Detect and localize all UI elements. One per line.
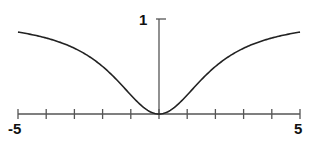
chart-plot	[0, 0, 315, 143]
x-tick-label-min: -5	[8, 121, 21, 136]
y-tick-label-1: 1	[139, 12, 147, 27]
axes	[18, 19, 300, 119]
x-tick-label-max: 5	[294, 121, 302, 136]
